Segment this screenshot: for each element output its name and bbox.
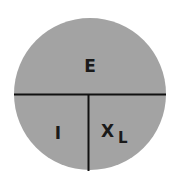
label-reactance-main: X: [101, 121, 114, 141]
label-reactance-subscript: L: [118, 129, 128, 147]
label-current: I: [55, 123, 61, 143]
label-voltage: E: [84, 56, 96, 76]
ohms-law-diagram: E I XL: [0, 0, 177, 180]
